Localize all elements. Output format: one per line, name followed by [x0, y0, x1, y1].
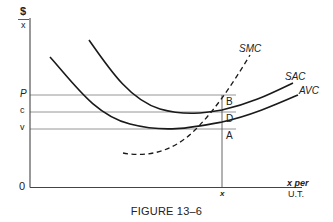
- sac-label: SAC: [285, 72, 306, 82]
- avc-label: AVC: [299, 86, 319, 96]
- y-axis-denominator: x: [21, 21, 26, 30]
- y-tick-average-cost: c: [20, 106, 25, 115]
- x-axis-label-line2: U.T.: [288, 190, 304, 199]
- x-tick-quantity: x: [220, 190, 224, 198]
- avc-curve: [50, 57, 298, 129]
- origin-label: 0: [19, 181, 25, 192]
- point-a-label: A: [226, 131, 233, 141]
- cost-curves-figure: $ x P c v 0 SMC SAC AVC B D A x x per U.…: [0, 0, 333, 222]
- smc-label: SMC: [239, 44, 261, 54]
- y-tick-price: P: [20, 89, 27, 99]
- y-tick-average-variable-cost: v: [20, 123, 25, 132]
- cost-curves-svg: [0, 0, 333, 222]
- x-axis-label-line1: x per: [287, 179, 309, 188]
- sac-curve: [89, 40, 293, 113]
- figure-caption: FIGURE 13–6: [0, 205, 333, 217]
- y-axis-numerator: $: [20, 6, 26, 17]
- point-b-label: B: [226, 97, 233, 107]
- point-d-label: D: [226, 114, 233, 124]
